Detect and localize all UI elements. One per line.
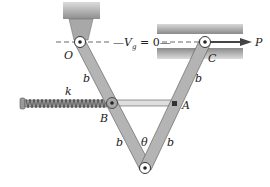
- label-b-upper-left: b: [83, 72, 90, 85]
- toggle-mechanism-diagram: —Vg = 0— O C P A: [0, 0, 270, 187]
- force-arrow-P: [205, 38, 252, 46]
- label-B: B: [99, 112, 108, 125]
- label-O: O: [64, 49, 73, 62]
- rod-BA: [112, 100, 174, 106]
- label-b-lower-right: b: [167, 136, 174, 149]
- label-C: C: [208, 52, 217, 65]
- label-A: A: [181, 99, 190, 112]
- pin-B: [107, 98, 118, 109]
- datum-label: —Vg = 0—: [113, 36, 171, 51]
- label-P: P: [254, 36, 263, 49]
- fixed-support: [63, 2, 100, 40]
- label-theta: θ: [141, 136, 148, 149]
- label-b-upper-right: b: [195, 72, 202, 85]
- pin-A: [172, 101, 177, 106]
- spring: [20, 98, 107, 109]
- pin-O: [75, 37, 86, 48]
- pin-C: [200, 37, 211, 48]
- label-k: k: [65, 85, 72, 98]
- label-b-lower-left: b: [116, 136, 123, 149]
- pin-bottom: [140, 163, 151, 174]
